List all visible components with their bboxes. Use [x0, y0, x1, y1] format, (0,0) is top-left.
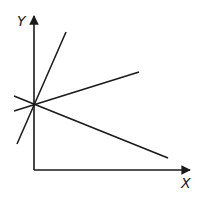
y-axis-label: Y	[17, 14, 26, 28]
steep-positive-line	[17, 32, 66, 144]
line-diagram	[0, 0, 201, 202]
x-axis-label: X	[181, 176, 191, 190]
negative-slope-line	[14, 96, 168, 158]
shallow-positive-line	[14, 72, 139, 111]
